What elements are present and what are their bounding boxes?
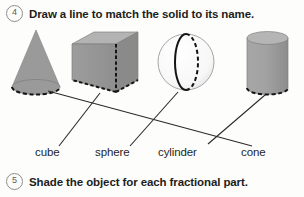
- connector-cube-to-cube: [59, 93, 100, 146]
- label-sphere[interactable]: sphere: [95, 146, 130, 158]
- matching-lines: [48, 91, 265, 146]
- problem-5-header: 5 Shade the object for each fractional p…: [6, 173, 248, 190]
- connector-sphere-to-sphere: [130, 92, 178, 146]
- problem-5-prompt: Shade the object for each fractional par…: [29, 176, 248, 188]
- connector-cylinder-to-cone: [208, 95, 265, 144]
- solids-diagram: [0, 0, 304, 197]
- label-cube[interactable]: cube: [35, 146, 60, 158]
- solid-sphere: [158, 34, 214, 90]
- problem-number-badge-5: 5: [6, 173, 23, 190]
- label-cylinder[interactable]: cylinder: [158, 146, 197, 158]
- solid-cone: [12, 30, 60, 95]
- solid-cube: [72, 32, 138, 92]
- connector-cone-to-cone: [48, 91, 252, 146]
- solid-cylinder: [247, 32, 288, 95]
- worksheet-page: 4 Draw a line to match the solid to its …: [0, 0, 304, 197]
- label-cone[interactable]: cone: [241, 146, 266, 158]
